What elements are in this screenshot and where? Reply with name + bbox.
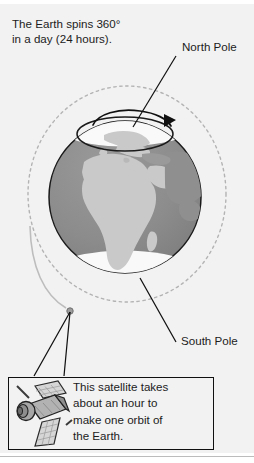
north-pole-label: North Pole <box>182 40 237 54</box>
top-margin <box>0 0 254 3</box>
figure-page: The Earth spins 360° in a day (24 hours)… <box>0 0 254 463</box>
south-pole-leader-line <box>140 278 176 342</box>
south-pole-label: South Pole <box>181 334 238 348</box>
north-pole-leader-line <box>133 56 176 127</box>
satellite-note-text: This satellite takes about an hour to ma… <box>73 379 208 444</box>
earth-rotation-figure: The Earth spins 360° in a day (24 hours)… <box>0 4 254 453</box>
satellite-icon <box>9 376 75 450</box>
satellite-callout-lines <box>34 312 70 376</box>
intro-caption: The Earth spins 360° in a day (24 hours)… <box>12 16 162 46</box>
bottom-separator-rule <box>0 456 254 457</box>
earth-globe-icon <box>49 114 214 279</box>
